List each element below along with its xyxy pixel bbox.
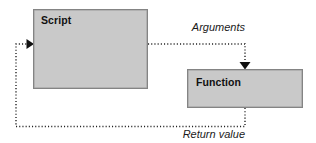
- arguments-edge-label: Arguments: [145, 21, 245, 34]
- arguments-connector-line: [148, 44, 245, 63]
- diagram-canvas: Script Function Arguments Return value: [0, 0, 316, 143]
- return-value-edge-label: Return value: [145, 128, 245, 141]
- function-node: [187, 69, 303, 108]
- script-node-label: Script: [41, 14, 71, 26]
- function-node-label: Function: [196, 76, 241, 88]
